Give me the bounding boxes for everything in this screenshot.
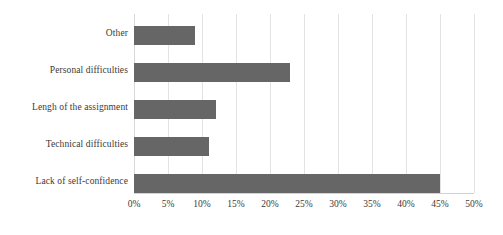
bar-row: [134, 128, 474, 165]
gridline-50%: [474, 14, 475, 193]
category-label-1: Other: [0, 28, 128, 38]
bar-3: [134, 100, 216, 119]
bar-2: [134, 63, 290, 82]
category-label-4: Technical difficulties: [0, 139, 128, 149]
category-label-3: Lengh of the assignment: [0, 102, 128, 112]
bar-5: [134, 174, 440, 193]
bar-row: [134, 165, 474, 202]
bar-row: [134, 91, 474, 128]
bar-chart: OtherPersonal difficultiesLengh of the a…: [0, 0, 503, 235]
category-label-5: Lack of self-confidence: [0, 176, 128, 186]
x-tick-50%: 50%: [454, 199, 494, 209]
category-label-2: Personal difficulties: [0, 65, 128, 75]
bar-row: [134, 17, 474, 54]
bar-4: [134, 137, 209, 156]
bar-row: [134, 54, 474, 91]
bar-1: [134, 26, 195, 45]
